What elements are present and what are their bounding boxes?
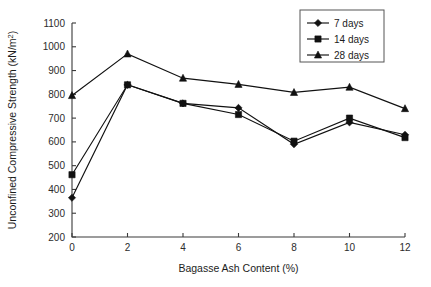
chart-figure: 2003004005006007008009001000110002468101… <box>0 0 431 287</box>
data-point <box>124 82 130 88</box>
series-line <box>72 85 405 175</box>
legend-marker-square-icon <box>315 36 321 42</box>
data-point <box>291 138 297 144</box>
x-tick-label: 0 <box>69 242 75 253</box>
x-tick-label: 6 <box>236 242 242 253</box>
series-line <box>72 85 405 198</box>
y-tick-label: 200 <box>48 232 65 243</box>
data-point <box>346 83 353 90</box>
legend-label: 14 days <box>334 34 369 45</box>
series-14-days <box>69 82 408 178</box>
y-axis-ticks: 20030040050060070080090010001100 <box>43 18 76 243</box>
data-point <box>68 92 75 99</box>
data-point <box>180 100 186 106</box>
x-tick-label: 10 <box>344 242 356 253</box>
legend-label: 28 days <box>334 50 369 61</box>
y-axis-title-text: Unconfined Compressive Strength (kN/m2) <box>6 31 18 230</box>
y-axis-title: Unconfined Compressive Strength (kN/m2) <box>6 31 18 230</box>
x-tick-label: 8 <box>291 242 297 253</box>
x-axis-ticks: 024681012 <box>69 233 411 253</box>
data-point <box>402 135 408 141</box>
data-point <box>69 172 75 178</box>
y-tick-label: 1000 <box>43 41 66 52</box>
y-tick-label: 1100 <box>43 18 65 29</box>
y-tick-label: 400 <box>48 184 65 195</box>
data-point <box>235 111 241 117</box>
x-tick-label: 12 <box>399 242 411 253</box>
y-tick-label: 700 <box>48 113 65 124</box>
y-tick-label: 800 <box>48 89 65 100</box>
data-point <box>235 104 242 111</box>
data-point <box>346 115 352 121</box>
x-axis-title: Bagasse Ash Content (%) <box>178 262 298 274</box>
y-tick-label: 900 <box>48 65 65 76</box>
x-tick-label: 2 <box>125 242 131 253</box>
series-7-days <box>68 81 408 201</box>
x-tick-label: 4 <box>180 242 186 253</box>
line-chart: 2003004005006007008009001000110002468101… <box>0 0 431 287</box>
y-tick-label: 600 <box>48 136 65 147</box>
legend: 7 days14 days28 days <box>300 10 384 62</box>
y-tick-label: 300 <box>48 208 65 219</box>
data-point <box>68 194 75 201</box>
y-tick-label: 500 <box>48 160 65 171</box>
legend-label: 7 days <box>334 18 363 29</box>
data-point <box>124 50 131 57</box>
data-point <box>179 74 186 81</box>
